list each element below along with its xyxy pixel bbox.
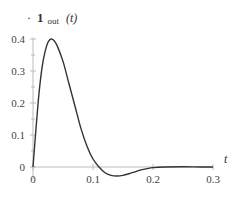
ticks: 00.10.20.300.10.20.30.4 (11, 33, 220, 185)
y-tick-label: 0.1 (11, 129, 25, 141)
y-tick-label: 0.3 (11, 65, 25, 77)
line-chart: 00.10.20.300.10.20.30.4 · 1 out (t) t (0, 0, 240, 198)
x-axis-label: t (224, 152, 228, 166)
y-label-arg: (t) (66, 11, 77, 25)
y-label-sub: out (48, 16, 60, 26)
x-tick-label: 0.3 (206, 173, 220, 185)
y-tick-label: 0.4 (11, 33, 25, 45)
x-tick-label: 0.2 (146, 173, 160, 185)
x-tick-label: 0.1 (86, 173, 100, 185)
y-tick-label: 0.2 (11, 97, 25, 109)
y-axis-label: · 1 out (t) (27, 10, 77, 27)
y-label-main: 1 (37, 10, 44, 25)
y-label-dot: · (27, 11, 31, 25)
data-curve (33, 39, 213, 176)
axes (33, 37, 213, 179)
x-tick-label: 0 (30, 173, 36, 185)
y-tick-label: 0 (20, 161, 26, 173)
